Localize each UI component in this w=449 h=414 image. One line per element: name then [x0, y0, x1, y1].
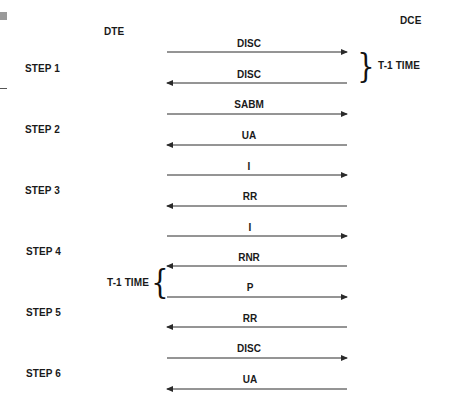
msg-rr-2: RR — [220, 313, 280, 324]
msg-rr-1: RR — [220, 191, 280, 202]
msg-i-1: I — [219, 161, 279, 172]
msg-sabm: SABM — [219, 99, 279, 110]
msg-disc-1: DISC — [219, 38, 279, 49]
msg-ua-2: UA — [220, 374, 280, 385]
msg-disc-2: DISC — [219, 69, 279, 80]
timer-label-left: T-1 TIME — [107, 277, 149, 288]
right-brace-icon: } — [357, 48, 374, 82]
msg-i-2: I — [220, 222, 280, 233]
timer-label-right: T-1 TIME — [378, 60, 420, 71]
msg-p: P — [220, 282, 280, 293]
msg-disc-3: DISC — [219, 343, 279, 354]
left-brace-icon: { — [151, 264, 168, 298]
msg-ua-1: UA — [219, 130, 279, 141]
msg-rnr: RNR — [219, 252, 279, 263]
